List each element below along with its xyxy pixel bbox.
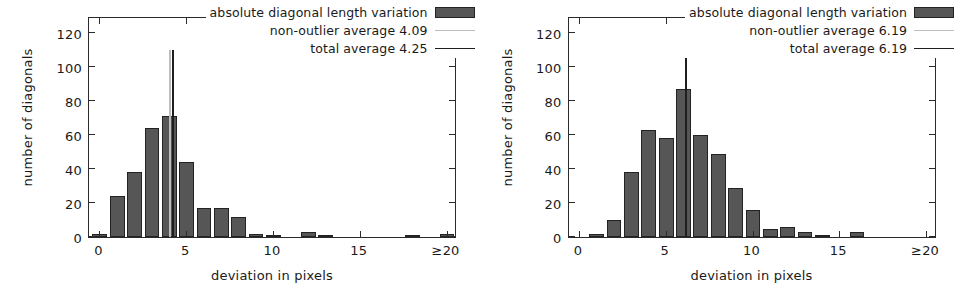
x-tick-mark xyxy=(666,231,667,237)
histogram-bar xyxy=(214,208,229,237)
legend-label: absolute diagonal length variation xyxy=(210,5,428,20)
x-tick-mark xyxy=(447,231,448,237)
legend-left: absolute diagonal length variationnon-ou… xyxy=(206,3,477,58)
y-tick-mark xyxy=(449,134,455,135)
legend-item: non-outlier average 4.09 xyxy=(270,23,475,38)
y-tick-labels-left: 020406080100120 xyxy=(44,17,82,238)
y-tick-label: 100 xyxy=(536,61,561,76)
legend-item: absolute diagonal length variation xyxy=(210,5,475,20)
x-axis-title-right: deviation in pixels xyxy=(568,268,936,283)
legend-right: absolute diagonal length variationnon-ou… xyxy=(685,3,956,58)
x-tick-mark xyxy=(99,18,100,24)
x-tick-mark xyxy=(273,231,274,237)
x-axis-title-left: deviation in pixels xyxy=(88,268,456,283)
histogram-bar xyxy=(231,217,246,237)
x-tick-mark xyxy=(926,231,927,237)
histogram-bar xyxy=(693,135,708,237)
y-tick-mark xyxy=(929,100,935,101)
y-axis-title-left: number of diagonals xyxy=(20,28,35,208)
y-tick-label: 80 xyxy=(65,95,82,110)
legend-swatch-line-light-icon xyxy=(435,30,475,31)
legend-swatch-line-dark-icon xyxy=(914,48,954,49)
y-tick-label: 0 xyxy=(74,231,82,246)
y-tick-mark xyxy=(89,32,95,33)
x-tick-mark xyxy=(99,231,100,237)
histogram-bar xyxy=(145,128,160,237)
y-tick-mark xyxy=(569,168,575,169)
histogram-bar xyxy=(763,229,778,238)
y-tick-mark xyxy=(929,134,935,135)
y-tick-mark xyxy=(929,168,935,169)
y-tick-label: 60 xyxy=(65,129,82,144)
x-tick-mark xyxy=(666,18,667,24)
y-tick-label: 120 xyxy=(57,27,82,42)
legend-label: non-outlier average 6.19 xyxy=(749,23,907,38)
legend-item: total average 6.19 xyxy=(790,41,954,56)
legend-swatch-box-icon xyxy=(435,7,475,18)
x-tick-mark xyxy=(360,231,361,237)
x-tick-mark xyxy=(753,231,754,237)
x-tick-labels-right: 051015≥20 xyxy=(568,243,936,261)
legend-item: total average 4.25 xyxy=(310,41,474,56)
y-tick-label: 40 xyxy=(545,163,562,178)
x-tick-mark xyxy=(839,231,840,237)
histogram-bar xyxy=(249,234,264,237)
y-tick-labels-right: 020406080100120 xyxy=(524,17,562,238)
y-tick-mark xyxy=(569,66,575,67)
legend-swatch-line-light-icon xyxy=(914,30,954,31)
x-tick-label: 0 xyxy=(94,243,102,258)
y-tick-mark xyxy=(89,168,95,169)
x-tick-labels-left: 051015≥20 xyxy=(88,243,456,261)
y-tick-label: 100 xyxy=(57,61,82,76)
x-tick-label: ≥20 xyxy=(911,243,939,258)
histogram-bar xyxy=(127,172,142,237)
legend-swatch-line-dark-icon xyxy=(435,48,475,49)
histogram-bar xyxy=(110,196,125,237)
histogram-bar xyxy=(197,208,212,237)
histogram-bar xyxy=(301,232,316,237)
y-tick-mark xyxy=(89,202,95,203)
x-tick-label: 10 xyxy=(264,243,281,258)
y-tick-mark xyxy=(569,202,575,203)
y-tick-mark xyxy=(569,32,575,33)
histogram-bar xyxy=(318,235,333,237)
y-tick-label: 80 xyxy=(545,95,562,110)
total-average-line xyxy=(172,50,174,237)
x-tick-mark xyxy=(579,231,580,237)
histogram-bar xyxy=(798,232,813,237)
x-tick-label: 5 xyxy=(181,243,189,258)
histogram-bar xyxy=(815,235,830,237)
non-outlier-average-line xyxy=(169,50,171,237)
y-tick-mark xyxy=(89,134,95,135)
y-tick-mark xyxy=(449,168,455,169)
total-average-line xyxy=(685,50,687,237)
x-tick-mark xyxy=(186,231,187,237)
y-tick-label: 20 xyxy=(65,197,82,212)
y-tick-mark xyxy=(569,100,575,101)
y-tick-mark xyxy=(929,202,935,203)
y-tick-mark xyxy=(569,236,575,237)
legend-swatch-box-icon xyxy=(914,7,954,18)
histogram-bar xyxy=(589,234,604,237)
histogram-bar xyxy=(607,220,622,237)
y-tick-mark xyxy=(449,100,455,101)
y-tick-mark xyxy=(89,66,95,67)
histogram-bar xyxy=(850,232,865,237)
y-tick-label: 20 xyxy=(545,197,562,212)
x-tick-label: 15 xyxy=(350,243,367,258)
legend-label: total average 6.19 xyxy=(790,41,907,56)
legend-label: absolute diagonal length variation xyxy=(689,5,907,20)
x-tick-label: 10 xyxy=(743,243,760,258)
legend-item: non-outlier average 6.19 xyxy=(749,23,954,38)
chart-panel-right: number of diagonals 020406080100120 0510… xyxy=(480,0,959,295)
histogram-bar xyxy=(676,89,691,237)
y-tick-mark xyxy=(569,134,575,135)
x-tick-mark xyxy=(186,18,187,24)
y-tick-mark xyxy=(929,236,935,237)
legend-label: total average 4.25 xyxy=(310,41,427,56)
histogram-bar xyxy=(624,172,639,237)
y-tick-label: 0 xyxy=(553,231,561,246)
y-tick-mark xyxy=(929,66,935,67)
histogram-bar xyxy=(780,227,795,237)
y-tick-mark xyxy=(449,202,455,203)
